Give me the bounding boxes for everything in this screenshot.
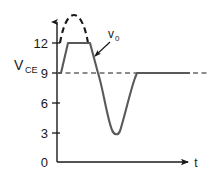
output-waveform-curve xyxy=(57,43,190,134)
y-tick-label-6: 6 xyxy=(41,96,48,111)
y-axis-title-subscript: CE xyxy=(25,65,38,75)
y-tick-marks xyxy=(52,43,60,133)
output-voltage-label: v 0 xyxy=(108,27,120,43)
output-label-leader-line xyxy=(95,42,110,56)
input-sine-peak-curve xyxy=(60,15,88,43)
vce-waveform-chart: 12 9 6 3 0 V CE t v 0 xyxy=(0,0,213,184)
y-axis-title: V CE xyxy=(14,57,38,75)
y-axis-title-main: V xyxy=(14,57,24,73)
y-tick-label-3: 3 xyxy=(41,126,48,141)
y-tick-label-12: 12 xyxy=(34,36,48,51)
y-tick-label-9: 9 xyxy=(41,66,48,81)
y-tick-label-0: 0 xyxy=(41,155,48,170)
x-axis-title: t xyxy=(194,156,198,170)
chart-canvas: 12 9 6 3 0 V CE t v 0 xyxy=(0,0,213,184)
output-voltage-label-subscript: 0 xyxy=(115,34,120,43)
output-voltage-label-main: v xyxy=(108,27,114,41)
y-tick-labels: 12 9 6 3 0 xyxy=(34,36,48,170)
